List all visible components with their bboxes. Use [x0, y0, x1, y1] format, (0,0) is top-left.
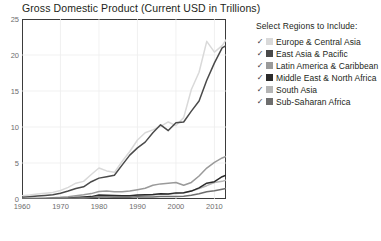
y-axis-tick-label: 25 [11, 15, 19, 24]
x-axis-tick-label: 1960 [14, 202, 31, 211]
region-selector: Select Regions to Include: ✓Europe & Cen… [256, 21, 380, 108]
x-axis-tick-label: 2000 [168, 202, 185, 211]
region-checkbox-row[interactable]: ✓Europe & Central Asia [256, 36, 380, 47]
region-label: Sub-Saharan Africa [276, 97, 351, 107]
color-swatch [266, 38, 273, 45]
region-checkbox-list: ✓Europe & Central Asia✓East Asia & Pacif… [256, 36, 380, 107]
plot-lines [22, 19, 226, 199]
checkmark-icon[interactable]: ✓ [256, 50, 264, 58]
x-axis: 196019701980199020002010 [22, 202, 226, 214]
gdp-chart-app: Gross Domestic Product (Current USD in T… [0, 0, 381, 241]
x-axis-tick-label: 1990 [129, 202, 146, 211]
color-swatch [266, 62, 273, 69]
region-label: South Asia [276, 85, 317, 95]
page-title: Gross Domestic Product (Current USD in T… [22, 2, 260, 15]
x-axis-tick-label: 2010 [206, 202, 223, 211]
series-line [22, 46, 226, 197]
series-line [22, 40, 226, 196]
plot-area [22, 19, 226, 199]
y-axis-tick-label: 5 [15, 159, 19, 168]
checkmark-icon[interactable]: ✓ [256, 74, 264, 82]
color-swatch [266, 98, 273, 105]
checkmark-icon[interactable]: ✓ [256, 86, 264, 94]
region-checkbox-row[interactable]: ✓Sub-Saharan Africa [256, 96, 380, 107]
checkmark-icon[interactable]: ✓ [256, 98, 264, 106]
y-axis-tick-label: 20 [11, 51, 19, 60]
region-label: Latin America & Caribbean [276, 61, 378, 71]
region-label: East Asia & Pacific [276, 49, 348, 59]
region-label: Middle East & North Africa [276, 73, 377, 83]
series-lines [22, 40, 226, 199]
color-swatch [266, 50, 273, 57]
color-swatch [266, 86, 273, 93]
checkmark-icon[interactable]: ✓ [256, 38, 264, 46]
checkmark-icon[interactable]: ✓ [256, 62, 264, 70]
x-axis-tick-label: 1980 [91, 202, 108, 211]
region-checkbox-row[interactable]: ✓Latin America & Caribbean [256, 60, 380, 71]
region-checkbox-row[interactable]: ✓South Asia [256, 84, 380, 95]
y-axis-tick-label: 15 [11, 87, 19, 96]
region-selector-title: Select Regions to Include: [256, 21, 380, 31]
region-checkbox-row[interactable]: ✓Middle East & North Africa [256, 72, 380, 83]
region-label: Europe & Central Asia [276, 37, 361, 47]
y-axis-tick-label: 10 [11, 123, 19, 132]
y-axis: 0510152025 [0, 19, 19, 199]
region-checkbox-row[interactable]: ✓East Asia & Pacific [256, 48, 380, 59]
gridlines [22, 19, 226, 199]
color-swatch [266, 74, 273, 81]
x-axis-tick-label: 1970 [52, 202, 69, 211]
